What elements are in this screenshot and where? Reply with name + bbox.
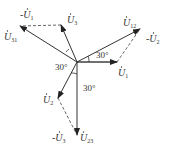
label-u23: U23 <box>80 132 93 144</box>
angle-label-0: 30° <box>55 62 68 72</box>
label-u12-phasor-dot <box>126 16 127 17</box>
dashed-phasors <box>20 25 140 135</box>
label-u2: U2 <box>43 94 53 106</box>
label-neg-u1: -U1 <box>20 9 34 21</box>
label-neg-u1-phasor-dot <box>27 8 28 9</box>
label-u2-phasor-dot <box>46 93 47 94</box>
solid-phasors <box>20 25 140 135</box>
label-u23-phasor-dot <box>83 131 84 132</box>
label-u31-phasor-dot <box>7 30 8 31</box>
label-neg-u2: -U2 <box>146 33 160 45</box>
phasor-labels: U1U2U3U12U23U31-U1-U2-U3 <box>4 8 160 144</box>
label-u1-phasor-dot <box>121 66 122 67</box>
label-neg-u2-phasor-dot <box>153 32 154 33</box>
dashed-neg-u3 <box>58 98 77 135</box>
label-neg-u3: -U3 <box>52 132 66 144</box>
angle-arc-0 <box>66 49 69 52</box>
angle-label-2: 30° <box>83 83 96 93</box>
label-u3-phasor-dot <box>70 13 71 14</box>
label-u12: U12 <box>123 17 136 29</box>
dashed-neg-u2 <box>117 29 140 62</box>
dashed-neg-u1 <box>20 25 61 26</box>
angle-arc-2 <box>71 73 77 74</box>
angle-arc-1 <box>88 56 89 62</box>
angle-label-1: 30° <box>96 50 109 60</box>
label-u1: U1 <box>118 67 128 79</box>
angle-labels: 30°30°30° <box>55 49 109 93</box>
label-u3: U3 <box>67 14 77 26</box>
phasor-diagram: 30°30°30° U1U2U3U12U23U31-U1-U2-U3 <box>0 0 172 154</box>
label-neg-u3-phasor-dot <box>59 131 60 132</box>
phasor-u31 <box>20 26 77 62</box>
label-u31: U31 <box>4 31 17 43</box>
